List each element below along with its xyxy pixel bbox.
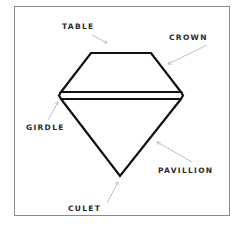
crown-arrow-icon: [168, 45, 207, 64]
culet-arrow-icon: [107, 182, 118, 203]
diamond-pavilion: [61, 99, 181, 176]
diamond-crown: [61, 53, 181, 92]
girdle-arrow-icon: [48, 102, 58, 120]
pavillion-arrow-icon: [157, 142, 192, 162]
label-crown: CROWN: [169, 34, 208, 42]
table-arrow-icon: [92, 35, 107, 43]
label-table: TABLE: [62, 23, 94, 31]
label-culet: CULET: [68, 205, 101, 213]
label-pavillion: PAVILLION: [158, 167, 213, 175]
diamond-girdle: [59, 92, 183, 99]
label-girdle: GIRDLE: [26, 124, 65, 132]
